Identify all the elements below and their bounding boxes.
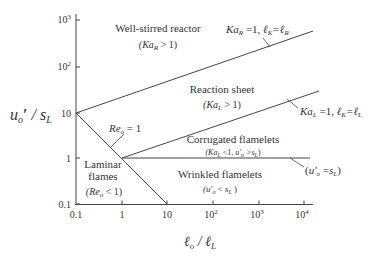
region-label-corrugated-flamelets: Corrugated flamelets — [187, 133, 280, 145]
region-condition-reaction-sheet: (KaL > 1) — [203, 99, 241, 112]
region-label-well-stirred-reactor: Well-stirred reactor — [115, 22, 201, 34]
x-tick-label: 0.1 — [70, 209, 83, 220]
region-label-wrinkled-flamelets: Wrinkled flamelets — [178, 168, 262, 180]
y-tick-label: 1 — [66, 153, 71, 164]
region-label-laminar-line1: Laminar — [84, 158, 122, 170]
x-tick-label: 10 — [162, 209, 172, 220]
region-label-reaction-sheet: Reaction sheet — [190, 83, 254, 95]
x-tick-label: 104 — [295, 208, 309, 220]
y-tick-label: 103 — [58, 13, 72, 25]
region-condition-well-stirred: (KaR > 1) — [139, 39, 177, 52]
regime-diagram: 103 102 10 1 0.1 0.1 1 10 102 103 104 uo… — [0, 0, 379, 262]
y-axis-label: uo′ / sL — [10, 106, 52, 125]
region-condition-laminar: (Reo < 1) — [86, 186, 122, 199]
x-tick-label: 1 — [120, 209, 125, 220]
region-label-laminar-line2: flames — [88, 170, 117, 182]
x-tick-label: 102 — [204, 208, 218, 220]
region-condition-corrugated: (KaL <1, u′o >sL) — [205, 148, 260, 158]
boundary-label-u-equals-sl: (u′o =sL) — [305, 164, 341, 178]
y-tick-label: 10 — [61, 108, 71, 119]
boundary-label-ka-r: KaR =1, ℓK=ℓR — [225, 23, 289, 37]
x-axis-label: ℓo / ℓL — [184, 234, 216, 251]
x-tick-label: 103 — [250, 208, 264, 220]
y-tick-label: 102 — [58, 60, 72, 72]
region-condition-wrinkled: (u′o < sL ) — [203, 184, 237, 195]
ka-r-boundary-line — [76, 31, 313, 113]
boundary-label-re: Reo = 1 — [108, 122, 141, 136]
boundary-label-ka-l: KaL =1, ℓK=ℓL — [299, 105, 362, 119]
